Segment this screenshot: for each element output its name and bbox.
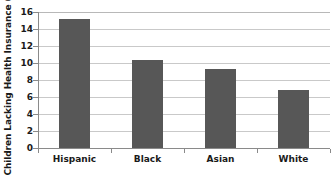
- x-axis-tick-mark: [257, 149, 258, 153]
- x-axis-tick-mark: [330, 149, 331, 153]
- bar: [132, 60, 163, 148]
- bar: [59, 19, 90, 148]
- x-axis-tick-label: Asian: [207, 155, 235, 164]
- x-axis-tick-labels: HispanicBlackAsianWhite: [38, 155, 330, 175]
- bar: [278, 90, 309, 148]
- x-axis-tick-label: Black: [134, 155, 161, 164]
- x-axis-tick-mark: [38, 149, 39, 153]
- bar: [205, 69, 236, 148]
- x-axis-tick-mark: [184, 149, 185, 153]
- y-axis-line: [38, 12, 39, 149]
- y-axis-tick-label: 14: [20, 25, 33, 34]
- bars-layer: [38, 12, 330, 148]
- y-axis-tick-label: 10: [20, 59, 33, 68]
- x-axis-tick-label: White: [279, 155, 309, 164]
- x-axis-tick-mark: [111, 149, 112, 153]
- x-axis-tick-label: Hispanic: [53, 155, 96, 164]
- plot-area: [38, 12, 330, 148]
- y-axis-title: Children Lacking Health Insurance (%): [0, 0, 16, 160]
- y-axis-tick-label: 12: [20, 42, 33, 51]
- y-axis-tick-label: 16: [20, 8, 33, 17]
- y-axis-title-text: Children Lacking Health Insurance (%): [3, 0, 13, 176]
- bar-chart: Children Lacking Health Insurance (%) 02…: [0, 0, 332, 186]
